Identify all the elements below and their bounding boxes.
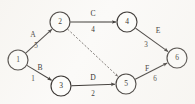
- edge-weight-F: 6: [153, 75, 157, 83]
- edge-2-to-5: [68, 29, 118, 76]
- edge-name-D: D: [90, 73, 96, 82]
- node-label-3: 3: [59, 81, 63, 90]
- edge-weight-E: 3: [144, 41, 148, 49]
- edge-weight-D: 2: [91, 90, 95, 98]
- node-label-1: 1: [16, 55, 20, 64]
- edge-name-B: B: [37, 63, 42, 72]
- edge-name-E: E: [156, 26, 161, 35]
- graph-canvas: 123456 A5B1C4D2E3F6: [0, 0, 195, 104]
- edge-name-F: F: [145, 64, 149, 73]
- edge-weight-A: 5: [34, 42, 38, 50]
- edge-3-to-5: [71, 84, 115, 85]
- edge-name-C: C: [90, 9, 95, 18]
- graph-figure: 123456 A5B1C4D2E3F6: [0, 0, 195, 104]
- node-label-5: 5: [124, 79, 128, 88]
- edge-weight-C: 4: [91, 26, 95, 34]
- edge-name-A: A: [30, 30, 36, 39]
- edge-weight-B: 1: [31, 75, 35, 83]
- node-label-2: 2: [58, 17, 62, 26]
- edge-layer: [26, 22, 168, 86]
- node-layer: 123456: [8, 12, 187, 96]
- node-label-4: 4: [125, 17, 129, 26]
- edge-4-to-6: [135, 28, 168, 51]
- node-label-6: 6: [175, 53, 179, 62]
- edge-5-to-6: [135, 63, 167, 79]
